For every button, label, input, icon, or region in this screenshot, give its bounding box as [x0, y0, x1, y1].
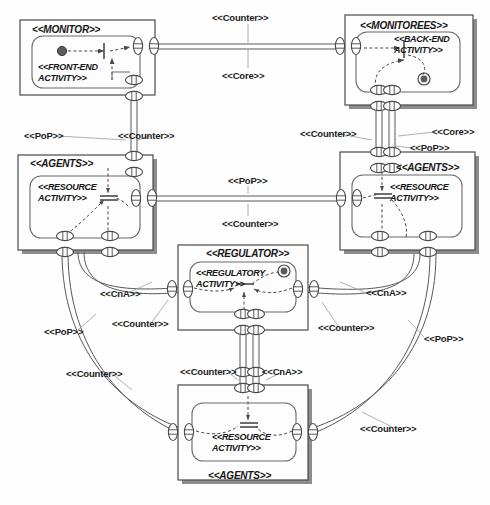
activity-label-line2: ACTIVITY>>	[394, 45, 443, 55]
activity-label-line2: ACTIVITY>>	[390, 193, 439, 203]
connector-label: <<PoP>>	[424, 333, 463, 344]
component-label-agents-bottom: <<AGENTS>>	[208, 470, 271, 481]
connector-label: <<CnA>>	[262, 366, 302, 377]
connector-label: <<PoP>>	[44, 326, 83, 337]
activity-label-front-end: <<FRONT-END ACTIVITY>>	[38, 62, 98, 84]
connector-label: <<Counter>>	[180, 366, 236, 377]
initial-node-icon	[57, 46, 66, 55]
activity-label-line1: <<RESOURCE	[212, 432, 271, 442]
connector-label: <<Core>>	[222, 70, 264, 81]
activity-label-line1: <<RESOURCE	[38, 182, 97, 192]
connector-label: <<Counter>>	[318, 322, 374, 333]
connector-label: <<Counter>>	[360, 423, 416, 434]
component-label-regulator: <<REGULATOR>>	[206, 248, 289, 259]
activity-label-line2: ACTIVITY>>	[38, 193, 87, 203]
connector-label: <<Counter>>	[66, 368, 122, 379]
activity-label-line1: <<BACK-END	[394, 34, 450, 44]
connector-label: <<Counter>>	[112, 318, 168, 329]
connector-label: <<PoP>>	[24, 130, 63, 141]
activity-label-regulatory: <<REGULATORY ACTIVITY>>	[196, 268, 265, 290]
activity-label-line2: ACTIVITY>>	[38, 73, 87, 83]
activity-label-resource-right: <<RESOURCE ACTIVITY>>	[390, 182, 449, 204]
activity-label-line2: ACTIVITY>>	[212, 443, 261, 453]
connector-label: <<PoP>>	[228, 175, 267, 186]
activity-label-line2: ACTIVITY>>	[196, 279, 245, 289]
activity-label-line1: <<FRONT-END	[38, 62, 98, 72]
connector-label: <<Core>>	[432, 126, 474, 137]
activity-label-back-end: <<BACK-END ACTIVITY>>	[394, 34, 450, 56]
connector-label: <<PoP>>	[410, 142, 449, 153]
activity-label-resource-bottom: <<RESOURCE ACTIVITY>>	[212, 432, 271, 454]
connector-label: <<CnA>>	[366, 287, 406, 298]
component-label-agents-right: <<AGENTS>>	[396, 162, 459, 173]
activity-label-resource-left: <<RESOURCE ACTIVITY>>	[38, 182, 97, 204]
activity-label-line1: <<RESOURCE	[390, 182, 449, 192]
connector-label: <<Counter>>	[212, 12, 268, 23]
activity-label-line1: <<REGULATORY	[196, 268, 265, 278]
connector-label: <<CnA>>	[100, 288, 140, 299]
component-label-monitor: <<MONITOR>>	[32, 24, 100, 35]
connector-label: <<Counter>>	[300, 128, 356, 139]
component-label-monitorees: <<MONITOREES>>	[360, 20, 448, 31]
connector-label: <<Counter>>	[118, 130, 174, 141]
connector-label: <<Counter>>	[222, 218, 278, 229]
diagram-canvas: <<MONITOR>> <<FRONT-END ACTIVITY>> <<MON…	[0, 0, 490, 505]
component-label-agents-left: <<AGENTS>>	[30, 158, 93, 169]
